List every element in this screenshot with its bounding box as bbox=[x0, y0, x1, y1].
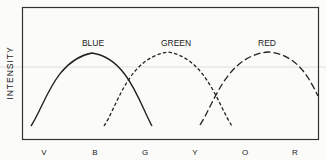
green-curve bbox=[104, 52, 232, 126]
blue-label: BLUE bbox=[82, 38, 105, 48]
x-tick-r: R bbox=[292, 148, 298, 157]
blue-curve bbox=[31, 53, 152, 126]
x-tick-o: O bbox=[242, 148, 248, 157]
red-label: RED bbox=[258, 38, 276, 48]
y-axis-label: INTENSITY bbox=[5, 46, 15, 99]
x-tick-b: B bbox=[92, 148, 97, 157]
x-tick-v: V bbox=[41, 148, 47, 157]
x-tick-y: Y bbox=[192, 148, 198, 157]
green-label: GREEN bbox=[161, 38, 191, 48]
x-tick-g: G bbox=[142, 148, 148, 157]
spectrum-chart: INTENSITY BLUE GREEN RED V B G Y O R bbox=[0, 0, 326, 160]
plot-frame bbox=[23, 8, 319, 140]
red-curve bbox=[200, 52, 318, 125]
